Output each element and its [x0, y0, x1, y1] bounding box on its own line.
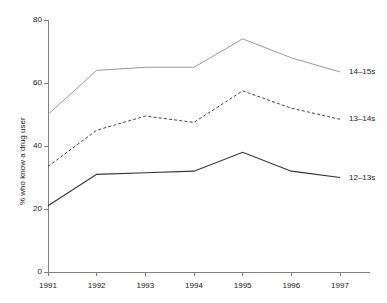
x-axis-tick-label: 1991 [39, 282, 57, 290]
series-line-2 [48, 91, 340, 167]
x-axis-tick-label: 1992 [88, 282, 106, 290]
series-line-1 [48, 39, 340, 115]
axes-group [44, 20, 370, 276]
y-axis-tick-label: 20 [18, 205, 42, 213]
x-axis-tick-label: 1994 [185, 282, 203, 290]
y-axis-tick-label: 60 [18, 79, 42, 87]
series-line-3 [48, 152, 340, 206]
y-axis-tick-label: 40 [18, 142, 42, 150]
series-label-1: 14–15s [349, 68, 375, 76]
drug-user-awareness-line-chart: % who know a drug user 020406080 1991199… [0, 0, 387, 303]
x-axis-tick-label: 1996 [282, 282, 300, 290]
x-axis-tick-label: 1997 [331, 282, 349, 290]
series-label-2: 13–14s [349, 115, 375, 123]
x-axis-tick-label: 1993 [136, 282, 154, 290]
x-axis-tick-label: 1995 [234, 282, 252, 290]
series-label-3: 12–13s [349, 174, 375, 182]
y-axis-tick-label: 80 [18, 16, 42, 24]
series-group [48, 39, 340, 206]
y-axis-tick-label: 0 [18, 268, 42, 276]
y-axis-title: % who know a drug user [19, 117, 27, 205]
chart-plot-area [0, 0, 387, 303]
